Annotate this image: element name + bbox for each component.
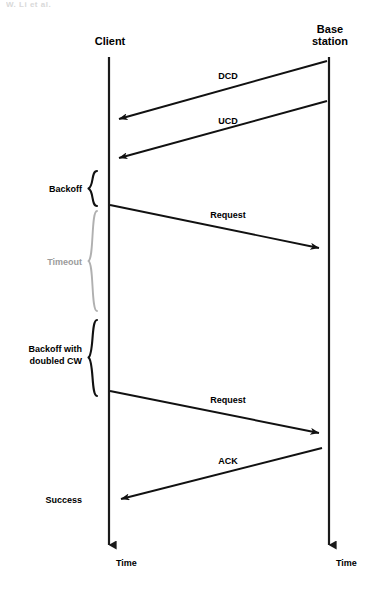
phase-label-backoff: Backoff xyxy=(49,184,83,194)
phase-backoff-doubled-cw: Backoff with doubled CW xyxy=(28,320,97,396)
lifeline-label-client: Client xyxy=(95,35,126,47)
message-request-2: Request xyxy=(110,391,319,433)
message-request-1: Request xyxy=(110,205,319,248)
phase-backoff: Backoff xyxy=(49,171,97,206)
time-label-base-station: Time xyxy=(336,558,357,568)
phases-group: Backoff Timeout Backoff with doubled CW xyxy=(28,171,97,396)
message-ack: ACK xyxy=(121,448,322,499)
phase-brace-backoff xyxy=(89,171,98,206)
phase-label-backoff-doubled-cw-line1: Backoff with xyxy=(28,344,82,354)
phase-label-backoff-doubled-cw-line2: doubled CW xyxy=(30,356,83,366)
sequence-diagram: Client Time Base station Time DCD UCD xyxy=(0,0,376,591)
lifeline-label-base-station-line2: station xyxy=(312,35,348,47)
lifeline-base-station: Base station Time xyxy=(312,23,357,568)
message-label-request-2: Request xyxy=(210,395,246,405)
phase-timeout: Timeout xyxy=(47,211,97,311)
message-label-ucd: UCD xyxy=(218,116,238,126)
message-label-ack: ACK xyxy=(218,456,238,466)
time-label-client: Time xyxy=(116,558,137,568)
sequence-diagram-page: W. Li et al. Client Time Base station Ti… xyxy=(0,0,376,591)
lifelines-group: Client Time Base station Time xyxy=(95,23,357,568)
annotations-group: Success xyxy=(45,495,82,505)
lifeline-label-base-station-line1: Base xyxy=(317,23,343,35)
message-label-request-1: Request xyxy=(210,210,246,220)
phase-brace-backoff-doubled-cw xyxy=(89,320,98,396)
phase-label-timeout: Timeout xyxy=(47,257,82,267)
messages-group: DCD UCD Request Request ACK xyxy=(110,61,327,499)
message-label-dcd: DCD xyxy=(218,71,238,81)
annotation-success: Success xyxy=(45,495,82,505)
phase-brace-timeout xyxy=(89,211,98,311)
